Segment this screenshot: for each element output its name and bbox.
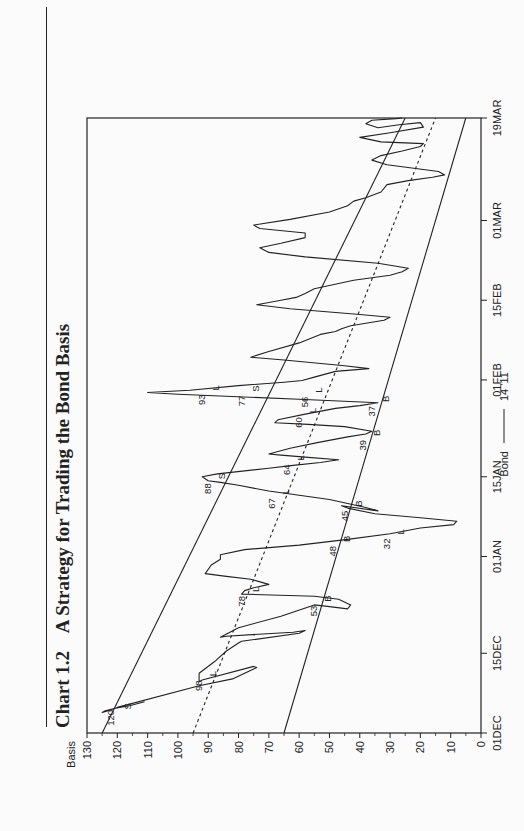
x-tick-label: 19MAR	[491, 100, 503, 137]
trade-annotation: B	[353, 500, 364, 506]
channel-line	[102, 118, 405, 733]
trade-annotation: L	[280, 489, 291, 494]
trade-annotation: 53	[308, 606, 319, 617]
trade-annotation: B	[322, 595, 333, 601]
y-tick-label: 90	[202, 741, 214, 753]
rotated-page: Chart 1.2 A Strategy for Trading the Bon…	[0, 0, 524, 831]
x-tick-label: 01DEC	[491, 715, 503, 751]
y-tick-label: 60	[293, 741, 305, 753]
legend-series-label: Bond	[498, 451, 510, 477]
basis-chart: 0102030405060708090100110120130Basis01DE…	[0, 0, 524, 831]
x-tick-label: 15DEC	[491, 635, 503, 671]
trade-annotation: L	[250, 587, 261, 592]
plot-frame	[87, 118, 481, 733]
trade-annotation: 67	[266, 498, 277, 509]
trade-annotation: 60	[293, 417, 304, 428]
y-tick-label: 50	[323, 741, 335, 753]
trade-annotation: S	[250, 385, 261, 391]
trade-annotation: B	[371, 430, 382, 436]
y-tick-label: 30	[384, 741, 396, 753]
y-tick-label: 0	[475, 741, 487, 747]
middle-trend-line	[193, 118, 435, 733]
trade-annotation: L	[295, 455, 306, 460]
y-tick-label: 110	[142, 741, 154, 759]
x-tick-label: 01JAN	[491, 540, 503, 573]
trade-annotation: B	[341, 536, 352, 542]
x-tick-label: 15FEB	[491, 283, 503, 317]
trade-annotation: L	[207, 671, 218, 676]
trade-annotation: L	[210, 385, 221, 390]
trade-annotation: 56	[299, 397, 310, 408]
y-tick-label: 80	[233, 741, 245, 753]
trade-annotation: 78	[236, 596, 247, 607]
y-tick-label: 10	[445, 741, 457, 753]
trade-annotation: 93	[196, 394, 207, 405]
trade-annotation: 39	[357, 440, 368, 451]
y-axis-label: Basis	[65, 741, 77, 768]
trade-annotation: S	[122, 703, 133, 709]
trade-annotation: 88	[202, 483, 213, 494]
y-tick-label: 120	[111, 741, 123, 759]
y-tick-label: 40	[354, 741, 366, 753]
trade-annotation: L	[395, 529, 406, 534]
y-tick-label: 130	[81, 741, 93, 759]
trade-annotation: 64	[281, 465, 292, 476]
trade-annotation: B	[380, 396, 391, 402]
trade-annotation: L	[307, 408, 318, 413]
trade-annotation: 45	[339, 511, 350, 522]
x-tick-label: 01MAR	[491, 202, 503, 239]
trade-annotation: 120	[105, 710, 116, 726]
trade-annotation: 32	[381, 539, 392, 550]
legend-line-label: 14 '11	[498, 372, 510, 401]
trade-annotation: 77	[236, 396, 247, 407]
bond-basis-line	[102, 118, 457, 713]
y-tick-label: 70	[263, 741, 275, 753]
trade-annotation: L	[313, 387, 324, 392]
y-tick-label: 20	[414, 741, 426, 753]
trade-annotation: 48	[327, 546, 338, 557]
trade-annotation: 98	[193, 680, 204, 691]
y-tick-label: 100	[172, 741, 184, 759]
trade-annotation: S	[216, 473, 227, 479]
channel-line	[284, 118, 466, 733]
trade-annotation: 37	[366, 406, 377, 417]
